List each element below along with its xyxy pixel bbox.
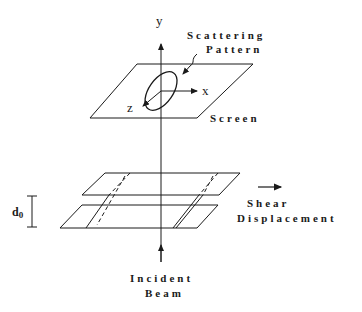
shear-lines-right: [173, 173, 218, 228]
d0-dimension-bar: [27, 196, 37, 227]
x-axis-label: x: [202, 83, 209, 98]
lower-plate: [60, 205, 218, 228]
pattern-label: Pattern: [206, 43, 262, 55]
beam-label: Beam: [145, 287, 184, 299]
y-axis-label: y: [156, 13, 163, 28]
z-axis-label: z: [127, 100, 133, 115]
d0-label: d0: [12, 205, 24, 220]
diagram-canvas: y x z Scattering Pattern Screen d0 Shear…: [0, 0, 362, 312]
shear-label: Shear: [247, 197, 290, 209]
incident-label: Incident: [130, 272, 193, 284]
screen-label: Screen: [210, 112, 260, 124]
shear-lines-left: [86, 173, 130, 228]
displacement-label: Displacement: [237, 212, 337, 224]
scattering-label: Scattering: [187, 29, 265, 41]
